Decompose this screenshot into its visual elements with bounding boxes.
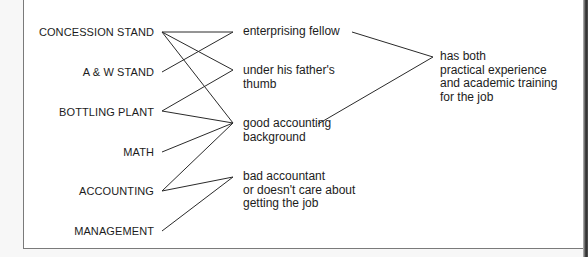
source-accounting: ACCOUNTING (4, 185, 154, 198)
edge-bottling-to-thumb (162, 70, 233, 111)
source-bottling-plant: BOTTLING PLANT (4, 106, 154, 119)
inference-line: background (243, 131, 331, 145)
inference-bad-accountant: bad accountant or doesn't care about get… (243, 170, 355, 211)
edge-goodacct-to-both (318, 57, 433, 124)
source-math: MATH (4, 146, 154, 159)
inference-enterprising-fellow: enterprising fellow (243, 25, 340, 39)
source-aw-stand: A & W STAND (4, 66, 154, 79)
conclusion-line: for the job (440, 91, 557, 105)
inference-line: good accounting (243, 117, 331, 131)
edge-concession-to-goodacct (162, 32, 233, 123)
inference-line: thumb (243, 78, 335, 92)
inference-good-accounting-background: good accounting background (243, 117, 331, 144)
inference-line: enterprising fellow (243, 25, 340, 39)
edge-management-to-badacct (162, 177, 233, 231)
source-concession-stand: CONCESSION STAND (4, 26, 154, 39)
inference-line: under his father's (243, 64, 335, 78)
edge-accounting-to-goodacct (162, 123, 233, 191)
inference-under-fathers-thumb: under his father's thumb (243, 64, 335, 91)
conclusion-line: and academic training (440, 77, 557, 91)
edge-accounting-to-badacct (162, 177, 233, 191)
edge-math-to-goodacct (162, 123, 233, 152)
inference-line: or doesn't care about (243, 184, 355, 198)
source-management: MANAGEMENT (4, 225, 154, 238)
edge-enterprising-to-both (352, 32, 433, 57)
conclusion-line: has both (440, 50, 557, 64)
conclusion-line: practical experience (440, 64, 557, 78)
conclusion-has-both: has both practical experience and academ… (440, 50, 557, 104)
edge-bottling-to-goodacct (162, 111, 233, 123)
inference-line: bad accountant (243, 170, 355, 184)
inference-line: getting the job (243, 197, 355, 211)
